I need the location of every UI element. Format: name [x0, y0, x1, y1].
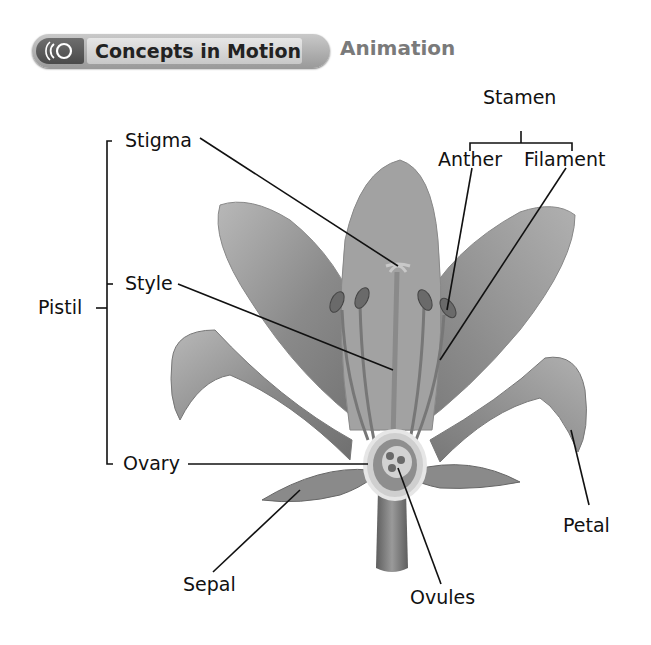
label-filament: Filament	[524, 150, 605, 169]
ovary	[365, 431, 425, 499]
label-stamen: Stamen	[483, 88, 556, 107]
label-style: Style	[125, 274, 173, 293]
label-stigma: Stigma	[125, 131, 192, 150]
label-sepal: Sepal	[183, 575, 236, 594]
label-ovules: Ovules	[410, 588, 475, 607]
sepal-left	[262, 469, 372, 501]
label-petal: Petal	[563, 516, 610, 535]
label-pistil: Pistil	[38, 298, 82, 317]
sepal-right	[412, 465, 520, 489]
label-ovary: Ovary	[123, 454, 180, 473]
stem	[376, 490, 408, 572]
label-anther: Anther	[438, 150, 502, 169]
